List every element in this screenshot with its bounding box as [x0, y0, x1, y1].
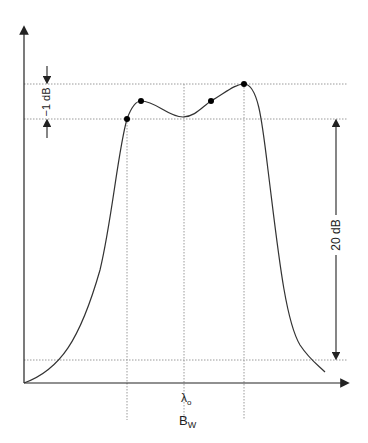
attenuation-label: 20 dB — [329, 219, 343, 250]
marked-points — [124, 81, 247, 122]
center-wavelength-label: λo — [181, 391, 192, 407]
ripple-label: −1 dB — [40, 87, 52, 116]
grid-lines — [24, 84, 348, 420]
response-curve — [24, 84, 325, 383]
filter-response-diagram: −1 dB 20 dB λo BW — [0, 0, 368, 443]
bandwidth-label: BW — [179, 413, 197, 430]
